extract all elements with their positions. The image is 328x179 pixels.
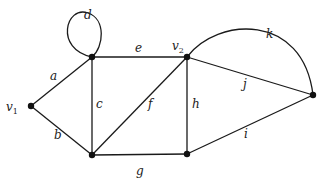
edge-k [187, 29, 313, 95]
edge-label-e: e [135, 41, 142, 55]
vertex-v2 [184, 54, 190, 60]
vertex-label-v1: v1 [6, 100, 18, 116]
edge-label-k: k [266, 27, 273, 41]
edge-label-g: g [136, 164, 144, 178]
edge-label-d: d [84, 8, 92, 22]
edge-label-a: a [50, 69, 57, 83]
edge-label-h: h [192, 97, 200, 111]
labels-layer: abcdefghijkv1v2 [6, 8, 273, 178]
vertex-BL [89, 152, 95, 158]
edge-label-b: b [54, 128, 62, 142]
edge-i [187, 95, 313, 154]
vertex-R [310, 92, 316, 98]
edge-label-i: i [244, 127, 248, 141]
edge-f [92, 57, 187, 155]
vertices-layer [28, 54, 316, 158]
vertex-label-v2: v2 [172, 39, 184, 55]
graph-diagram: abcdefghijkv1v2 [0, 0, 328, 179]
edge-label-f: f [147, 97, 155, 111]
vertex-BR [184, 151, 190, 157]
edge-label-j: j [240, 77, 247, 91]
edge-g [92, 154, 187, 155]
edge-a [31, 57, 92, 106]
vertex-TL [89, 54, 95, 60]
vertex-v1 [28, 103, 34, 109]
edge-label-c: c [96, 97, 103, 111]
edge-j [187, 57, 313, 95]
